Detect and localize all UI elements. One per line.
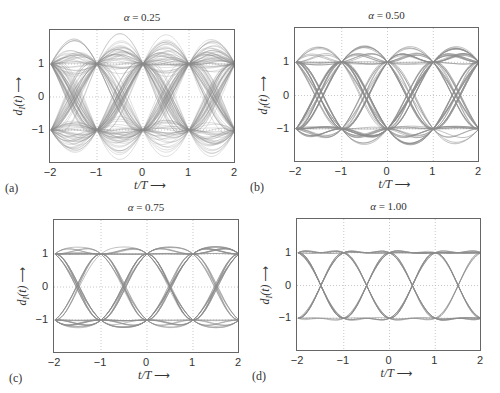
alpha-value: = 1.00 <box>376 200 407 212</box>
y-tick-label: 0 <box>38 90 44 102</box>
y-tick-label: −1 <box>276 122 289 134</box>
signal-trace <box>55 249 239 328</box>
eye-diagram-traces <box>50 30 235 163</box>
x-axis-label: t/T ⟶ <box>138 368 170 383</box>
x-tick-label: −1 <box>336 354 349 366</box>
x-tick-label: 1 <box>429 165 435 177</box>
arrow-right-icon: ⟶ <box>397 367 413 380</box>
x-tick-label: 0 <box>385 354 391 366</box>
alpha-value: = 0.75 <box>133 201 164 213</box>
x-tick-label: 1 <box>431 354 437 366</box>
plot-area <box>296 218 481 351</box>
chart-title: α = 1.00 <box>370 200 407 212</box>
x-axis-label-text: t/T <box>379 177 392 191</box>
x-tick-label: −1 <box>334 165 347 177</box>
signal-trace <box>296 56 479 143</box>
plot-area <box>49 29 235 163</box>
y-axis-label: dI(t) ⟶ <box>256 75 272 114</box>
signal-trace <box>55 249 239 327</box>
y-axis-label-text: dI(t) <box>258 284 272 304</box>
y-tick-label: 1 <box>38 57 44 69</box>
x-tick-label: −1 <box>94 356 107 368</box>
x-axis-label-text: t/T <box>381 366 394 380</box>
x-tick-label: −2 <box>44 166 57 178</box>
signal-trace <box>55 249 239 328</box>
y-tick-label: 1 <box>285 246 291 258</box>
signal-trace <box>55 254 239 326</box>
arrow-right-icon: ⟶ <box>150 179 166 192</box>
signal-trace <box>55 249 239 328</box>
arrow-right-icon: ⟶ <box>154 369 170 382</box>
y-axis-label-text: dI(t) <box>15 285 29 305</box>
y-axis-label: dI(t) ⟶ <box>11 77 27 116</box>
eye-diagram-traces <box>297 219 481 351</box>
y-tick-label: −1 <box>35 313 48 325</box>
x-tick-label: 2 <box>475 165 481 177</box>
y-tick-label: 0 <box>285 279 291 291</box>
panel-label: (c) <box>9 371 22 386</box>
x-tick-label: −1 <box>90 166 103 178</box>
panel-label: (d) <box>252 369 266 384</box>
x-tick-label: 1 <box>185 166 191 178</box>
y-tick-label: −1 <box>278 311 291 323</box>
arrow-up-icon: ⟶ <box>16 267 29 283</box>
x-tick-label: 0 <box>383 165 389 177</box>
panel-label: (a) <box>5 181 18 196</box>
y-tick-label: −1 <box>31 123 44 135</box>
chart-title: α = 0.75 <box>128 201 165 213</box>
x-axis-label: t/T ⟶ <box>379 177 411 192</box>
arrow-right-icon: ⟶ <box>395 178 411 191</box>
chart-title: α = 0.50 <box>368 9 405 21</box>
signal-trace <box>298 253 481 320</box>
signal-trace <box>55 254 239 327</box>
y-tick-label: 1 <box>42 247 48 259</box>
signal-trace <box>55 254 239 326</box>
y-tick-label: 1 <box>283 55 289 67</box>
y-axis-label: dI(t) ⟶ <box>258 265 274 304</box>
arrow-up-icon: ⟶ <box>259 265 272 281</box>
y-axis-label: dI(t) ⟶ <box>15 267 31 306</box>
signal-trace <box>55 248 239 327</box>
eye-diagram-traces <box>295 28 479 162</box>
plot-area <box>294 27 479 162</box>
arrow-up-icon: ⟶ <box>12 77 25 93</box>
y-tick-label: 0 <box>283 89 289 101</box>
x-axis-label: t/T ⟶ <box>134 178 166 193</box>
chart-title: α = 0.25 <box>124 11 161 23</box>
y-tick-label: 0 <box>42 280 48 292</box>
x-tick-label: 0 <box>139 166 145 178</box>
alpha-value: = 0.50 <box>374 9 405 21</box>
y-axis-label-text: dI(t) <box>256 94 270 114</box>
alpha-value: = 0.25 <box>129 11 160 23</box>
x-axis-label: t/T ⟶ <box>381 366 413 381</box>
plot-area <box>53 219 239 353</box>
x-tick-label: 2 <box>477 354 483 366</box>
x-tick-label: 2 <box>231 166 237 178</box>
x-tick-label: −2 <box>291 354 304 366</box>
x-tick-label: −2 <box>48 356 61 368</box>
x-axis-label-text: t/T <box>134 178 147 192</box>
eye-diagram-traces <box>54 220 239 353</box>
x-tick-label: 0 <box>143 356 149 368</box>
signal-trace <box>55 254 239 327</box>
y-axis-label-text: dI(t) <box>11 95 25 115</box>
signal-trace <box>55 249 239 328</box>
panel-label: (b) <box>250 180 264 195</box>
x-axis-label-text: t/T <box>138 368 151 382</box>
x-tick-label: −2 <box>289 165 302 177</box>
signal-trace <box>55 249 239 327</box>
arrow-up-icon: ⟶ <box>257 75 270 91</box>
x-tick-label: 2 <box>235 356 241 368</box>
signal-trace <box>298 253 481 321</box>
x-tick-label: 1 <box>189 356 195 368</box>
